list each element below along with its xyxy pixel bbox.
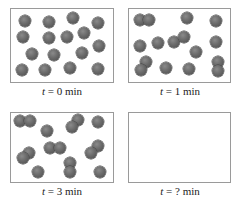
- particle-icon: [24, 115, 36, 127]
- particle-icon: [92, 17, 104, 29]
- particle-icon: [143, 14, 155, 26]
- particle-icon: [41, 125, 53, 137]
- particle-icon: [61, 31, 73, 43]
- time-value: = ? min: [163, 185, 199, 197]
- particle-icon: [160, 62, 172, 74]
- particle-icon: [92, 116, 104, 128]
- particle-icon: [92, 63, 104, 75]
- particle-icon: [178, 31, 190, 43]
- particle-icon: [67, 12, 79, 24]
- time-value: = 0 min: [45, 85, 82, 97]
- particle-icon: [135, 64, 147, 76]
- label-t0: t = 0 min: [10, 85, 114, 97]
- particle-icon: [26, 48, 38, 60]
- time-value: = 1 min: [163, 85, 200, 97]
- particle-icon: [64, 62, 76, 74]
- particle-icon: [64, 166, 76, 178]
- particle-icon: [85, 147, 97, 159]
- particle-icon: [54, 142, 66, 154]
- particle-icon: [210, 15, 222, 27]
- particle-icon: [76, 47, 88, 59]
- particle-icon: [190, 46, 202, 58]
- particle-icon: [17, 31, 29, 43]
- label-t3: t = 3 min: [10, 185, 114, 197]
- particle-icon: [19, 15, 31, 27]
- panel-t-unknown: [128, 112, 231, 183]
- time-value: = 3 min: [45, 185, 82, 197]
- particle-icon: [39, 64, 51, 76]
- particle-icon: [210, 36, 222, 48]
- particle-icon: [93, 40, 105, 52]
- particle-icon: [94, 166, 106, 178]
- particle-icon: [212, 65, 224, 77]
- label-t1: t = 1 min: [128, 85, 232, 97]
- particle-icon: [17, 152, 29, 164]
- particle-icon: [183, 63, 195, 75]
- particle-icon: [32, 166, 44, 178]
- particle-icon: [43, 16, 55, 28]
- particle-icon: [78, 27, 90, 39]
- particle-icon: [48, 49, 60, 61]
- particle-icon: [43, 32, 55, 44]
- particle-icon: [134, 40, 146, 52]
- particle-icon: [66, 121, 78, 133]
- particle-icon: [181, 12, 193, 24]
- particle-icon: [152, 37, 164, 49]
- particle-icon: [16, 64, 28, 76]
- label-t-unknown: t = ? min: [128, 185, 232, 197]
